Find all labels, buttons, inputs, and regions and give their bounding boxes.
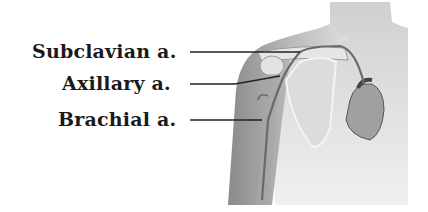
label-axillary-artery: Axillary a. xyxy=(62,72,171,94)
label-subclavian-artery: Subclavian a. xyxy=(32,40,176,62)
humerus-head xyxy=(260,56,284,76)
shoulder-anatomy-illustration xyxy=(0,0,428,212)
label-brachial-artery: Brachial a. xyxy=(58,108,176,130)
